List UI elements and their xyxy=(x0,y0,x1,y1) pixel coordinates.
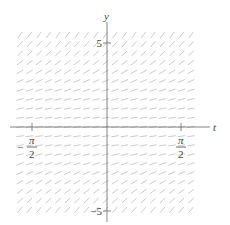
slope-segment xyxy=(160,60,166,65)
slope-segment xyxy=(17,180,23,184)
x-tick-denominator: 2 xyxy=(29,148,35,160)
slope-segment xyxy=(141,198,146,203)
slope-segment xyxy=(45,89,52,91)
slope-segment xyxy=(55,79,62,82)
slope-segment xyxy=(130,117,137,118)
slope-segment xyxy=(27,207,32,213)
slope-segment xyxy=(168,145,175,146)
slope-segment xyxy=(84,198,89,203)
slope-segment xyxy=(122,60,128,65)
slope-segment xyxy=(93,198,98,203)
slope-segment xyxy=(188,70,194,74)
slope-segment xyxy=(16,154,23,156)
slope-segment xyxy=(36,51,41,56)
slope-segment xyxy=(73,108,80,109)
slope-segment xyxy=(54,108,61,109)
slope-segment xyxy=(74,60,80,65)
slope-segment xyxy=(17,51,22,56)
slope-segment xyxy=(27,41,32,47)
slope-segment xyxy=(27,189,33,194)
slope-segment xyxy=(179,41,184,47)
slope-segment xyxy=(111,89,118,91)
slope-segment xyxy=(179,189,185,194)
slope-segment xyxy=(113,32,117,38)
slope-segment xyxy=(149,145,156,146)
slope-segment xyxy=(112,171,119,174)
slope-segment xyxy=(45,108,52,109)
slope-segment xyxy=(122,32,126,38)
slope-segment xyxy=(160,207,165,213)
slope-segment xyxy=(92,108,99,109)
slope-segment xyxy=(26,180,32,184)
slope-segment xyxy=(27,32,31,38)
slope-segment xyxy=(83,145,90,146)
slope-field-diagram: π2−π25−5 t y xyxy=(0,0,230,225)
slope-segment xyxy=(131,189,137,194)
slope-segment xyxy=(93,171,100,174)
slope-segment xyxy=(178,99,185,101)
slope-segment xyxy=(178,79,185,82)
slope-segment xyxy=(46,207,51,213)
slope-segment xyxy=(111,163,118,165)
slope-segment xyxy=(160,198,165,203)
slope-segment xyxy=(55,51,60,56)
slope-segment xyxy=(45,70,51,74)
slope-segment xyxy=(36,171,43,174)
slope-segment xyxy=(54,117,61,118)
slope-segment xyxy=(188,180,194,184)
slope-segment xyxy=(65,207,70,213)
slope-segment xyxy=(130,99,137,101)
slope-segment xyxy=(73,136,80,137)
slope-segment xyxy=(27,60,33,65)
slope-segment xyxy=(149,163,156,165)
slope-segment xyxy=(45,171,52,174)
slope-segment xyxy=(64,180,70,184)
slope-segment xyxy=(84,60,90,65)
slope-segment xyxy=(140,70,146,74)
slope-segment xyxy=(26,79,33,82)
slope-segment xyxy=(92,136,99,137)
slope-segment xyxy=(55,171,62,174)
slope-segment xyxy=(149,154,156,156)
slope-segment xyxy=(83,136,90,137)
slope-segment xyxy=(92,154,99,156)
slope-segment xyxy=(16,117,23,118)
slope-segment xyxy=(73,154,80,156)
slope-segment xyxy=(121,117,128,118)
slope-segment xyxy=(55,189,61,194)
slope-segment xyxy=(141,189,147,194)
slope-segment xyxy=(121,108,128,109)
slope-segment xyxy=(130,108,137,109)
slope-segment xyxy=(150,180,156,184)
slope-segment xyxy=(45,99,52,101)
slope-segment xyxy=(74,189,80,194)
slope-segment xyxy=(121,171,128,174)
slope-segment xyxy=(26,108,33,109)
slope-segment xyxy=(121,70,127,74)
slope-segment xyxy=(83,89,90,91)
y-tick-label: 5 xyxy=(97,37,103,49)
slope-segment xyxy=(169,51,174,56)
slope-segment xyxy=(122,207,127,213)
x-tick-numerator: π xyxy=(29,134,35,146)
slope-segment xyxy=(179,60,185,65)
slope-segment xyxy=(131,180,137,184)
slope-segment xyxy=(102,163,109,165)
slope-segment xyxy=(65,198,70,203)
slope-segment xyxy=(18,41,23,47)
slope-segment xyxy=(187,145,194,146)
slope-segment xyxy=(169,79,176,82)
slope-segment xyxy=(179,198,184,203)
slope-segment xyxy=(84,41,89,47)
slope-segment xyxy=(188,171,195,174)
slope-segment xyxy=(74,171,81,174)
slope-segment xyxy=(93,79,100,82)
slope-segment xyxy=(122,41,127,47)
slope-segment xyxy=(36,180,42,184)
slope-segment xyxy=(27,198,32,203)
slope-segment xyxy=(170,41,175,47)
slope-segment xyxy=(35,136,42,137)
slope-segment xyxy=(111,99,118,101)
slope-segment xyxy=(92,89,99,91)
slope-segment xyxy=(121,154,128,156)
